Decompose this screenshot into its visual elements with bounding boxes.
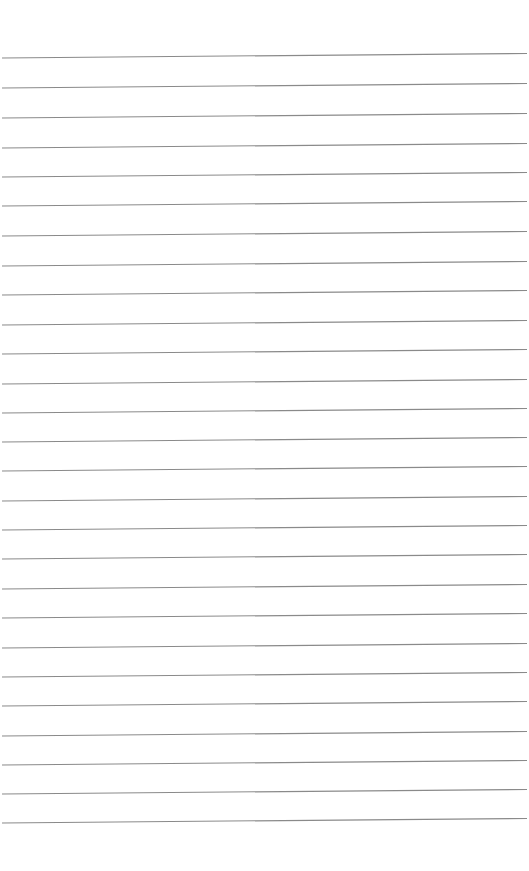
ruled-line [2, 790, 527, 795]
ruled-line [2, 291, 527, 296]
ruled-line [2, 497, 527, 502]
ruled-line [2, 202, 527, 207]
ruled-line [2, 526, 527, 531]
ruled-line [2, 438, 527, 443]
ruled-lines [0, 0, 529, 871]
ruled-line [2, 84, 527, 89]
ruled-line [2, 761, 527, 766]
ruled-line [2, 321, 527, 326]
ruled-line [2, 702, 527, 707]
ruled-line [2, 144, 527, 149]
ruled-line [2, 819, 527, 824]
ruled-line [2, 555, 527, 560]
ruled-line [2, 232, 527, 237]
ruled-line [2, 732, 527, 737]
ruled-line [2, 673, 527, 678]
ruled-line [2, 467, 527, 472]
ruled-line [2, 262, 527, 267]
ruled-line [2, 380, 527, 385]
ruled-line [2, 585, 527, 590]
lined-paper-page [0, 0, 529, 871]
ruled-line [2, 614, 527, 619]
ruled-line [2, 114, 527, 119]
ruled-line [2, 350, 527, 355]
ruled-line [2, 644, 527, 649]
ruled-line [2, 173, 527, 178]
ruled-line [2, 409, 527, 414]
ruled-line [2, 54, 527, 59]
